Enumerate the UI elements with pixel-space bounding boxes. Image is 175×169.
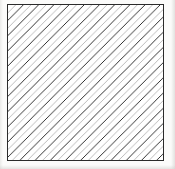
hatch-fill (8, 5, 163, 160)
page-edge-shade-bottom (0, 165, 175, 169)
page-edge-shade-right (171, 0, 175, 169)
hatched-square (7, 4, 164, 161)
page-edge-shade-left (0, 0, 3, 169)
figure-canvas (0, 0, 175, 169)
